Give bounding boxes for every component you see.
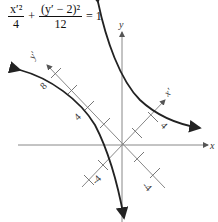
tick-label-neg-xprime: -4 [141,180,155,194]
tick-label-xprime-4: 4 [159,120,170,131]
x-axis-label: x [209,140,215,151]
hyperbola-plot: x y x′ y′ 8 4 4 -4 -4 [0,0,218,222]
tick-label-neg-yprime: -4 [90,173,104,187]
y-prime-axis [47,65,165,188]
hyperbola-upper-branch [98,2,200,128]
x-prime-axis-label: x′ [161,85,175,99]
hyperbola-lower-branch [20,70,124,218]
tick-label-yprime-4: 4 [72,111,83,122]
y-axis-label: y [118,19,124,30]
y-prime-axis-label: y′ [26,49,40,62]
